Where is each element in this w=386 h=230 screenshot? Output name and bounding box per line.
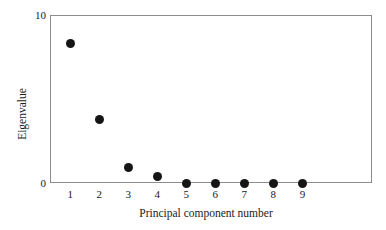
data-point bbox=[182, 179, 191, 188]
x-axis-title: Principal component number bbox=[0, 206, 386, 220]
x-axis-tick-label: 4 bbox=[145, 188, 169, 201]
y-axis-tick-label: 0 bbox=[41, 178, 47, 189]
data-point bbox=[95, 115, 104, 124]
data-point bbox=[298, 179, 307, 188]
x-axis-tick-label: 2 bbox=[87, 188, 111, 201]
x-axis-tick-label: 3 bbox=[116, 188, 140, 201]
data-point bbox=[124, 163, 133, 172]
data-point bbox=[66, 39, 75, 48]
x-axis-tick-label: 9 bbox=[290, 188, 314, 201]
data-point bbox=[269, 179, 278, 188]
data-point bbox=[240, 179, 249, 188]
x-axis-tick-label: 1 bbox=[58, 188, 82, 201]
y-axis-tick-label: 10 bbox=[35, 10, 46, 21]
data-point bbox=[153, 172, 162, 181]
x-axis-tick-label: 8 bbox=[261, 188, 285, 201]
x-axis-tick-label: 7 bbox=[232, 188, 256, 201]
scree-plot-figure: 010 Eigenvalue Principal component numbe… bbox=[0, 0, 386, 230]
plot-area bbox=[50, 15, 372, 183]
x-axis-tick-label: 6 bbox=[203, 188, 227, 201]
x-axis-tick-label: 5 bbox=[174, 188, 198, 201]
data-point bbox=[211, 179, 220, 188]
y-axis-title-text: Eigenvalue bbox=[15, 88, 29, 140]
